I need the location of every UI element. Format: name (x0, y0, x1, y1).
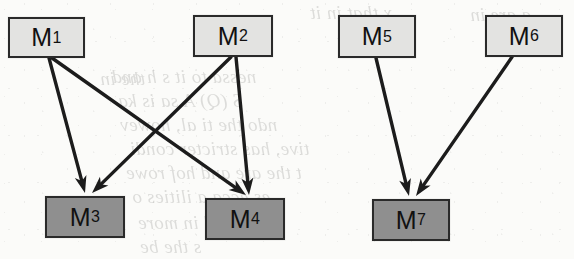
node-label-base: M (509, 22, 530, 51)
figure-canvas: x that in ita are inthe innessa to it s … (0, 0, 574, 259)
edge-m5-to-m7 (376, 58, 411, 196)
node-m4: M4 (205, 198, 285, 240)
node-label-subscript: 1 (52, 29, 61, 47)
node-m3: M3 (45, 196, 125, 238)
edge-m2-to-m3 (92, 57, 231, 193)
node-label-subscript: 4 (251, 210, 260, 228)
node-label-subscript: 6 (530, 27, 539, 45)
edge-m6-to-m7 (416, 57, 512, 196)
edge-shaft (423, 57, 512, 186)
node-m1: M1 (8, 17, 85, 58)
node-label-base: M (362, 22, 383, 51)
edge-shaft (101, 57, 231, 185)
node-label-base: M (218, 22, 239, 51)
edge-m2-to-m4 (236, 57, 253, 195)
node-label-subscript: 3 (91, 208, 100, 226)
node-label-base: M (31, 23, 52, 52)
node-m2: M2 (193, 15, 273, 57)
node-m7: M7 (372, 199, 450, 241)
node-m6: M6 (485, 15, 563, 57)
node-label-subscript: 5 (383, 28, 392, 46)
edge-shaft (376, 58, 406, 184)
node-m5: M5 (338, 15, 416, 58)
node-label-base: M (230, 205, 251, 234)
node-label-base: M (70, 203, 91, 232)
node-label-base: M (396, 206, 417, 235)
edge-arrowhead (416, 179, 431, 196)
node-label-subscript: 2 (239, 27, 248, 45)
node-label-subscript: 7 (417, 211, 426, 229)
edge-shaft (236, 57, 248, 183)
